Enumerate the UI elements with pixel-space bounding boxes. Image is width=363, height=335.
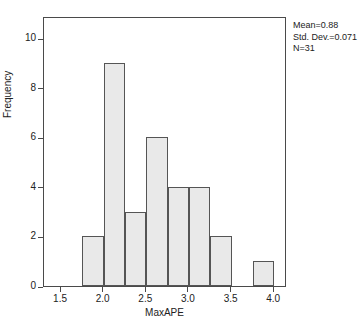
x-tick-label: 3.0 (181, 293, 195, 305)
stat-std-dev: Std. Dev.=0.071 (293, 32, 363, 44)
stat-n: N=31 (293, 43, 363, 55)
y-tick-label: 6 (30, 131, 36, 143)
x-tick-label: 3.5 (224, 293, 238, 305)
x-tick-label: 2.5 (138, 293, 152, 305)
histogram-bar (146, 137, 167, 286)
x-tick-mark (102, 287, 103, 292)
x-tick-label: 4.0 (266, 293, 280, 305)
x-tick-mark (60, 287, 61, 292)
x-tick-label: 1.5 (53, 293, 67, 305)
x-tick-mark (273, 287, 274, 292)
stat-mean: Mean=0.88 (293, 20, 363, 32)
histogram-chart: Frequency 0246810 1.52.02.53.03.54.0 Max… (0, 0, 363, 335)
histogram-bar (253, 261, 274, 286)
x-axis-title: MaxAPE (43, 307, 286, 318)
y-tick-label: 0 (30, 280, 36, 292)
y-tick-label: 10 (25, 32, 36, 44)
y-axis: 0246810 (0, 17, 43, 287)
x-tick-mark (230, 287, 231, 292)
histogram-bar (82, 236, 103, 286)
x-tick-label: 2.0 (96, 293, 110, 305)
bars-layer (44, 18, 285, 286)
y-tick-label: 2 (30, 230, 36, 242)
histogram-bar (104, 63, 125, 286)
histogram-bar (210, 236, 231, 286)
y-tick-label: 4 (30, 181, 36, 193)
histogram-bar (189, 187, 210, 286)
x-tick-mark (145, 287, 146, 292)
stats-annotation: Mean=0.88 Std. Dev.=0.071 N=31 (293, 20, 363, 55)
y-tick-label: 8 (30, 82, 36, 94)
x-tick-mark (187, 287, 188, 292)
histogram-bar (125, 212, 146, 286)
histogram-bar (168, 187, 189, 286)
x-axis: 1.52.02.53.03.54.0 (43, 287, 286, 309)
plot-area (43, 17, 286, 287)
